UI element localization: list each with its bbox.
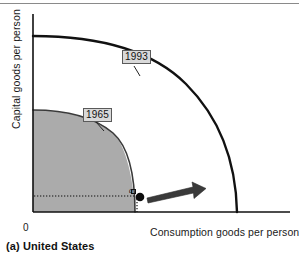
leader-line-1993 xyxy=(134,66,140,76)
growth-arrow xyxy=(147,182,206,203)
point-a-dot xyxy=(136,193,145,202)
x-axis-label: Consumption goods per person xyxy=(150,226,299,238)
curve-label-1993: 1993 xyxy=(122,50,151,64)
origin-label: 0 xyxy=(23,222,29,233)
ppf-plot-svg xyxy=(0,0,299,259)
curve-label-1965: 1965 xyxy=(83,108,112,122)
figure-ppf-united-states: Capital goods per person Consumption goo… xyxy=(0,0,299,259)
point-a-label: a xyxy=(129,186,133,195)
region-1965-fill xyxy=(33,110,135,212)
figure-caption: (a) United States xyxy=(6,240,95,252)
y-axis-label: Capital goods per person xyxy=(10,9,22,129)
